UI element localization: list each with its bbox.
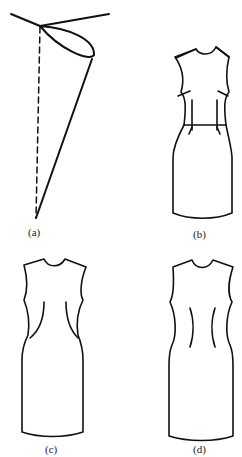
panel-c-drawing [22, 259, 86, 437]
panel-d-label: (d) [193, 443, 206, 455]
panel-b-label: (b) [193, 228, 206, 240]
panel-d-drawing [169, 260, 233, 441]
panel-b-drawing [173, 47, 232, 218]
panel-a-label: (a) [28, 226, 40, 238]
panel-c-label: (c) [45, 443, 57, 455]
panel-a-drawing [11, 14, 109, 218]
